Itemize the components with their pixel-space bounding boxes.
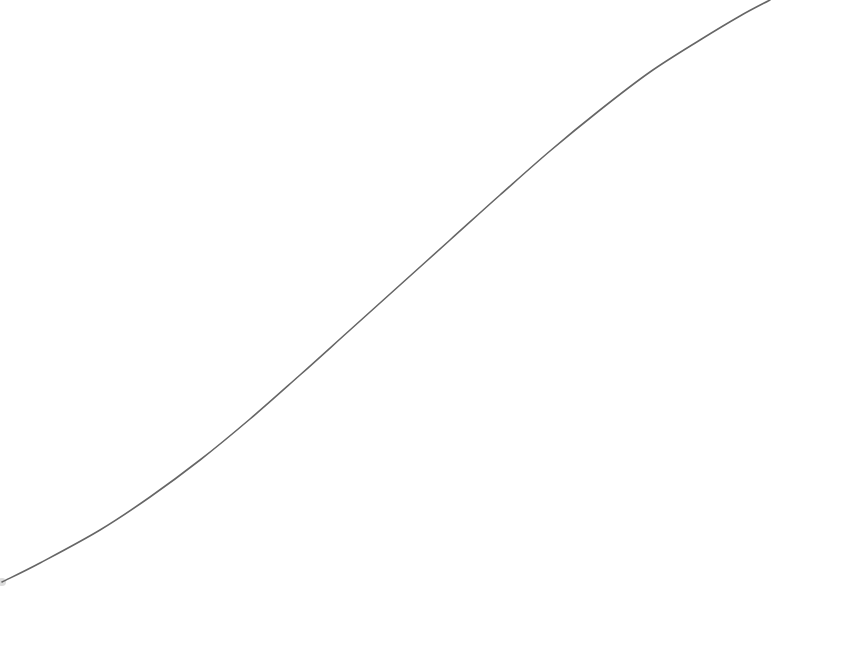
canvas [0,0,858,664]
background [0,0,858,664]
